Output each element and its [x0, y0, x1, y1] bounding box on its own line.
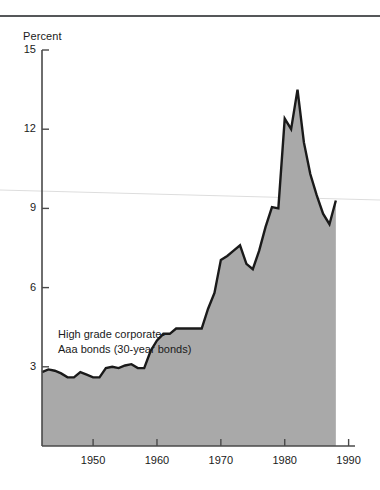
y-tick-label: 9	[12, 201, 36, 213]
x-tick-label: 1980	[265, 454, 305, 466]
series-area-fill	[42, 90, 336, 446]
y-tick-label: 6	[12, 281, 36, 293]
x-tick-label: 1990	[329, 454, 369, 466]
y-axis-title: Percent	[23, 30, 62, 42]
x-tick-label: 1950	[73, 454, 113, 466]
y-tick-label: 12	[12, 122, 36, 134]
y-tick-label: 3	[12, 360, 36, 372]
annotation-line: Aaa bonds (30-year bonds)	[58, 342, 191, 357]
chart-plot-area	[0, 0, 380, 490]
x-tick-label: 1970	[201, 454, 241, 466]
x-tick-label: 1960	[137, 454, 177, 466]
chart-figure: Percent 1512963 19501960197019801990 Hig…	[0, 0, 380, 490]
y-tick-label: 15	[12, 43, 36, 55]
annotation-line: High grade corporate-	[58, 327, 191, 342]
y-axis-ticks	[42, 50, 49, 367]
series-annotation-label: High grade corporate-Aaa bonds (30-year …	[58, 327, 191, 357]
